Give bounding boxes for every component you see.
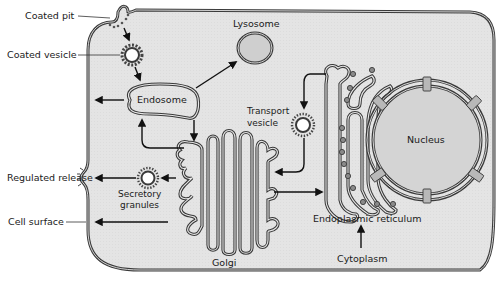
label-cytoplasm: Cytoplasm [337,253,388,264]
label-endoplasmic-reticulum: Endoplasmic reticulum [313,213,422,224]
label-cell-surface: Cell surface [8,216,64,227]
label-nucleus: Nucleus [407,134,445,145]
label-transport-vesicle-2: vesicle [247,118,279,128]
lysosome [238,33,272,63]
label-golgi: Golgi [212,257,236,268]
label-coated-pit: Coated pit [25,10,75,21]
label-regulated-release: Regulated release [7,172,93,183]
label-secretory-granules-2: granules [120,200,159,210]
label-lysosome: Lysosome [233,18,280,29]
label-coated-vesicle: Coated vesicle [7,49,77,60]
label-secretory-granules-1: Secretory [118,189,162,199]
label-endosome: Endosome [137,94,187,105]
cell-trafficking-diagram: Coated pit Coated vesicle Lysosome Endos… [0,0,503,288]
label-transport-vesicle-1: Transport [246,106,290,116]
